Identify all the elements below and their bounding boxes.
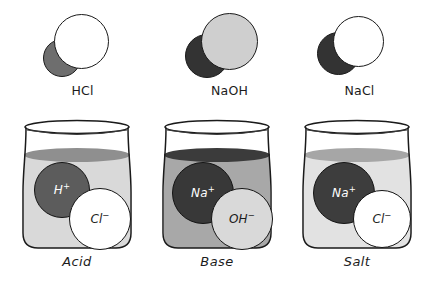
beaker-base: Na+ OH− Base: [158, 112, 276, 257]
atom-chlorine: [333, 16, 384, 67]
beaker-caption-acid: Acid: [18, 254, 136, 269]
atom-hydroxide: [201, 13, 258, 70]
molecule-label-naoh: NaOH: [177, 83, 282, 98]
beaker-caption-base: Base: [158, 254, 276, 269]
ion-label-chloride: Cl−: [90, 213, 109, 225]
beaker-acid: H+ Cl− Acid: [18, 112, 136, 257]
atom-chlorine: [54, 14, 109, 69]
ion-label-hydrogen: H+: [54, 184, 70, 196]
beaker-salt: Na+ Cl− Salt: [298, 112, 416, 257]
ion-chloride: Cl−: [353, 190, 411, 248]
molecule-label-hcl: HCl: [35, 83, 130, 98]
molecule-naoh: NaOH: [145, 0, 290, 105]
ion-label-sodium: Na+: [332, 187, 356, 199]
ion-hydroxide: OH−: [211, 188, 273, 250]
chemistry-diagram: HCl NaOH NaCl: [0, 0, 431, 285]
ion-label-hydroxide: OH−: [229, 213, 255, 225]
ion-chloride: Cl−: [69, 188, 131, 250]
ion-label-chloride: Cl−: [372, 213, 391, 225]
beaker-caption-salt: Salt: [298, 254, 416, 269]
molecule-nacl: NaCl: [285, 0, 431, 105]
molecule-label-nacl: NaCl: [307, 83, 412, 98]
ion-label-sodium: Na+: [191, 187, 215, 199]
molecule-hcl: HCl: [0, 0, 145, 105]
